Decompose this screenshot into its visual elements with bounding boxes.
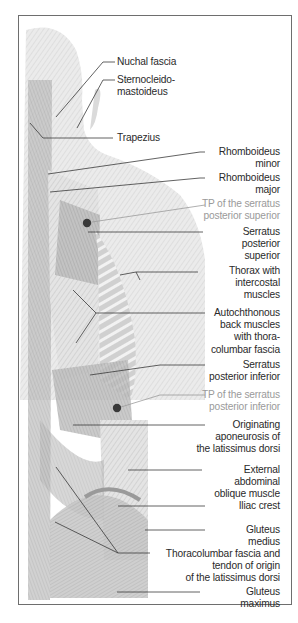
label-serratus-posterior-superior: Serratus posterior superior <box>242 226 280 263</box>
label-serratus-posterior-inferior: Serratus posterior inferior <box>209 359 280 383</box>
label-gluteus-maximus: Gluteus maximus <box>240 586 280 610</box>
label-latissimus-aponeurosis: Originating aponeurosis of the latissimu… <box>196 419 280 456</box>
label-iliac-crest: Iliac crest <box>239 500 280 512</box>
label-thorax-intercostal: Thorax with intercostal muscles <box>229 265 280 302</box>
label-thoracolumbar-fascia-tendon: Thoracolumbar fascia and tendon of origi… <box>166 548 280 585</box>
label-nuchal-fascia: Nuchal fascia <box>117 56 176 68</box>
trigger-point-marker-inferior <box>113 404 121 412</box>
label-rhomboideus-major: Rhomboideus major <box>219 172 280 196</box>
label-trapezius: Trapezius <box>117 132 160 144</box>
label-autochthonous-back-muscles: Autochthonous back muscles with thora- c… <box>211 307 280 356</box>
label-tp-serratus-posterior-superior: TP of the serratus posterior superior <box>202 198 280 222</box>
label-external-abdominal-oblique: External abdominal oblique muscle <box>214 464 280 501</box>
trigger-point-marker-superior <box>83 219 91 227</box>
label-gluteus-medius: Gluteus medius <box>246 524 280 548</box>
label-tp-serratus-posterior-inferior: TP of the serratus posterior inferior <box>202 389 280 413</box>
label-sternocleidomastoideus: Sternocleido- mastoideus <box>117 74 175 98</box>
label-rhomboideus-minor: Rhomboideus minor <box>219 146 280 170</box>
